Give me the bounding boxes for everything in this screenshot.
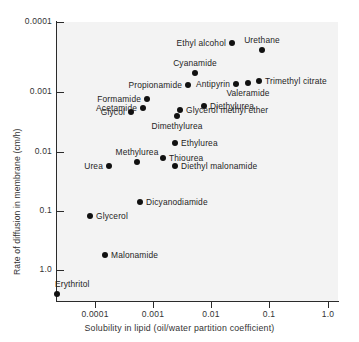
y-tick-mark	[57, 270, 64, 271]
data-point-marker	[144, 96, 150, 102]
data-point-label: Trimethyl citrate	[265, 76, 327, 86]
y-tick-label: 0.001	[0, 86, 52, 96]
x-tick-label: 0.01	[181, 309, 241, 319]
data-point-marker	[172, 163, 178, 169]
y-axis-line	[56, 21, 57, 302]
data-point-label: Dimethylurea	[151, 121, 202, 131]
data-point-marker	[259, 47, 265, 53]
data-point-label: Dicyanodiamide	[146, 197, 208, 207]
data-point-marker	[160, 155, 166, 161]
data-point-label: Cyanamide	[173, 58, 217, 68]
x-tick-mark	[95, 302, 96, 308]
y-tick-mark	[57, 22, 64, 23]
data-point-marker	[185, 82, 191, 88]
data-point-label: Propionamide	[129, 80, 182, 90]
data-point-label: Glycerol methyl ether	[186, 105, 268, 115]
data-point-marker	[87, 213, 93, 219]
data-point-label: Methylurea	[116, 147, 159, 157]
y-axis-title: Rate of diffusion in membrane (cm/h)	[12, 128, 22, 275]
data-point-marker	[245, 80, 251, 86]
y-tick-mark	[57, 211, 64, 212]
data-point-label: Ethyl alcohol	[177, 38, 226, 48]
x-tick-mark	[328, 302, 329, 308]
data-point-label: Erythritol	[55, 279, 90, 289]
data-point-label: Valeramide	[226, 88, 269, 98]
x-tick-label: 0.001	[123, 309, 183, 319]
data-point-marker	[102, 252, 108, 258]
y-tick-label: 1.0	[0, 264, 52, 274]
data-point-label: Glycerol	[96, 211, 128, 221]
data-point-label: Urethane	[244, 35, 280, 45]
data-point-marker	[256, 78, 262, 84]
y-tick-label: 0.0001	[0, 16, 52, 26]
x-tick-label: 0.1	[239, 309, 299, 319]
data-point-label: Antipyrin	[196, 79, 230, 89]
data-point-marker	[54, 291, 60, 297]
data-point-label: Ethylurea	[181, 138, 218, 148]
y-tick-label: 0.01	[0, 146, 52, 156]
y-tick-mark	[57, 152, 64, 153]
data-point-label: Glycol	[101, 107, 125, 117]
data-point-label: Malonamide	[111, 250, 158, 260]
y-tick-mark	[57, 92, 64, 93]
data-point-marker	[174, 113, 180, 119]
scatter-plot-figure: 0.00010.0010.010.11.0 0.00010.0010.010.1…	[0, 0, 359, 342]
x-tick-label: 1.0	[298, 309, 358, 319]
data-point-marker	[229, 40, 235, 46]
data-point-marker	[137, 199, 143, 205]
data-point-marker	[192, 70, 198, 76]
x-tick-mark	[269, 302, 270, 308]
x-tick-mark	[153, 302, 154, 308]
data-point-label: Urea	[84, 161, 103, 171]
data-point-marker	[172, 140, 178, 146]
x-axis-title: Solubility in lipid (oil/water partition…	[0, 323, 359, 333]
data-point-marker	[134, 159, 140, 165]
data-point-label: Diethyl malonamide	[181, 161, 257, 171]
x-axis-line	[56, 301, 339, 302]
data-point-marker	[106, 163, 112, 169]
data-point-marker	[233, 81, 239, 87]
data-point-marker	[177, 107, 183, 113]
x-tick-label: 0.0001	[65, 309, 125, 319]
x-tick-mark	[211, 302, 212, 308]
data-point-marker	[140, 105, 146, 111]
data-point-marker	[128, 109, 134, 115]
y-tick-label: 0.1	[0, 205, 52, 215]
